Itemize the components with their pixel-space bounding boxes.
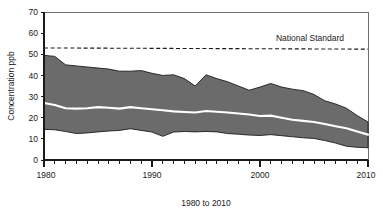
x-tick-label: 1980 — [37, 170, 56, 180]
y-tick-label: 20 — [29, 113, 39, 123]
national-standard-label: National Standard — [276, 33, 344, 43]
y-tick-label: 60 — [29, 28, 39, 38]
y-tick-label: 10 — [29, 134, 39, 144]
y-tick-label: 40 — [29, 71, 39, 81]
x-axis-ticks: 1980199020002010 — [37, 160, 376, 180]
percentile-band-area — [44, 55, 368, 147]
x-tick-label: 2010 — [357, 170, 376, 180]
y-axis-title: Concentration ppb — [6, 51, 16, 121]
chart-canvas: National Standard 010203040506070 198019… — [0, 0, 383, 214]
y-tick-label: 70 — [29, 7, 39, 17]
concentration-trend-chart: National Standard 010203040506070 198019… — [0, 0, 383, 214]
y-tick-label: 50 — [29, 49, 39, 59]
y-tick-label: 30 — [29, 92, 39, 102]
x-axis-title: 1980 to 2010 — [181, 198, 231, 208]
x-tick-label: 1990 — [143, 170, 162, 180]
national-standard-reference-line — [44, 48, 368, 49]
x-tick-label: 2000 — [251, 170, 270, 180]
y-axis-ticks: 010203040506070 — [29, 7, 44, 165]
y-tick-label: 0 — [33, 155, 38, 165]
